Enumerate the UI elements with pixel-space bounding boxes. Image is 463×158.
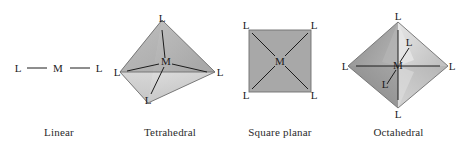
linear-diagram: L M L bbox=[0, 0, 118, 126]
ligand-label: L bbox=[159, 12, 166, 24]
ligand-label: L bbox=[406, 36, 413, 48]
ligand-label: L bbox=[96, 62, 103, 74]
ligand-label: L bbox=[382, 78, 389, 90]
ligand-label: L bbox=[145, 94, 152, 106]
ligand-label: L bbox=[311, 89, 318, 101]
caption-square-planar: Square planar bbox=[222, 126, 338, 138]
metal-label: M bbox=[53, 62, 63, 74]
octahedral-diagram: L L L L L L M bbox=[334, 0, 463, 126]
metal-label: M bbox=[161, 55, 171, 67]
ligand-label: L bbox=[449, 60, 456, 72]
square-planar-diagram: L L L L M bbox=[222, 0, 338, 126]
metal-label: M bbox=[393, 59, 403, 71]
geometry-octahedral: L L L L L L M Octahedral bbox=[334, 0, 463, 158]
ligand-label: L bbox=[243, 19, 250, 31]
geometry-square-planar: L L L L M Square planar bbox=[222, 0, 338, 158]
tetrahedral-diagram: L L L L M bbox=[110, 0, 230, 126]
coordination-geometry-figure: L M L Linear bbox=[0, 0, 463, 158]
metal-label: M bbox=[275, 55, 285, 67]
geometry-linear: L M L Linear bbox=[0, 0, 118, 158]
caption-octahedral: Octahedral bbox=[334, 126, 463, 138]
ligand-label: L bbox=[15, 62, 22, 74]
ligand-label: L bbox=[395, 108, 402, 120]
ligand-label: L bbox=[114, 66, 121, 78]
caption-linear: Linear bbox=[0, 126, 118, 138]
ligand-label: L bbox=[395, 10, 402, 22]
caption-tetrahedral: Tetrahedral bbox=[110, 126, 230, 138]
ligand-label: L bbox=[342, 60, 349, 72]
ligand-label: L bbox=[243, 89, 250, 101]
ligand-label: L bbox=[311, 19, 318, 31]
geometry-tetrahedral: L L L L M Tetrahedral bbox=[110, 0, 230, 158]
